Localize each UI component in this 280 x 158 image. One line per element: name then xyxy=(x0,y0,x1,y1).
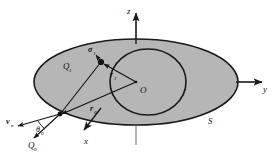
q0-label-group: Q 0 xyxy=(28,140,37,152)
y-axis-label: y xyxy=(262,84,267,94)
origin-label: O xyxy=(140,85,147,95)
q1-subscript: 1 xyxy=(69,68,72,73)
vn-subscript: n xyxy=(11,123,14,128)
geometry-figure: z y x O S Q 1 Q 0 σ 1 r 1 r xyxy=(0,0,280,158)
q0-subscript: 0 xyxy=(34,147,37,152)
vn-label-group: v n xyxy=(6,117,14,128)
surface-label: S xyxy=(208,116,213,126)
sigma1-subscript: 1 xyxy=(93,51,96,56)
theta0-label: θ xyxy=(36,125,40,134)
z-axis-label: z xyxy=(126,6,131,16)
vn-label: v xyxy=(6,117,10,126)
figure-canvas: z y x O S Q 1 Q 0 σ 1 r 1 r xyxy=(0,0,280,158)
x-axis-label: x xyxy=(83,136,88,146)
theta0-subscript: 0 xyxy=(41,131,44,136)
r1-subscript: 1 xyxy=(114,76,117,81)
